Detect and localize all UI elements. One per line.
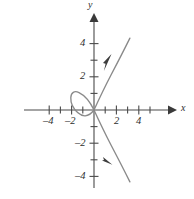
graph-figure: y x –4 –2 2 4 4 2 –2 –4 <box>0 0 194 199</box>
x-axis-arrowhead <box>168 106 177 115</box>
y-tick-label-2: 2 <box>80 71 85 82</box>
upper-branch-arrowhead <box>103 54 112 71</box>
x-tick-label-2: 2 <box>114 116 119 127</box>
y-tick-label--2: –2 <box>75 138 86 149</box>
x-axis <box>24 106 177 115</box>
y-axis-arrowhead <box>90 13 99 22</box>
y-tick-label--4: –4 <box>75 171 86 182</box>
x-tick-label--2: –2 <box>65 116 76 127</box>
x-axis-label: x <box>181 103 185 113</box>
x-tick-label-4: 4 <box>136 116 141 127</box>
y-tick-label-4: 4 <box>80 38 85 49</box>
y-axis <box>90 13 99 188</box>
x-tick-label--4: –4 <box>43 116 54 127</box>
coordinate-plane <box>0 0 194 199</box>
lower-branch-arrowhead <box>102 157 112 165</box>
y-axis-label: y <box>88 0 92 10</box>
